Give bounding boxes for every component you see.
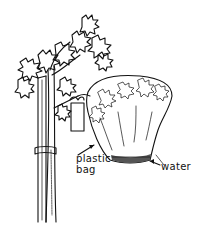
plastic-bag-label-line1: plastic [76, 153, 111, 164]
tree-bag-drawing [0, 0, 201, 234]
foliage [15, 15, 113, 121]
stake [38, 76, 46, 222]
plastic-bag-label: plastic bag [76, 153, 111, 175]
plastic-bag-label-line2: bag [76, 164, 111, 175]
water-label: water [161, 161, 191, 172]
plastic-bag [87, 76, 173, 165]
illustration-canvas: plastic bag water [0, 0, 201, 234]
hang-tag [70, 97, 84, 131]
tree-trunk [46, 66, 56, 222]
